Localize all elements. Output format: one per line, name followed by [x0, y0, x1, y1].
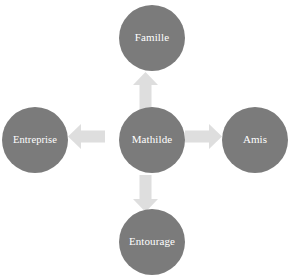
arrow-down-icon — [133, 175, 158, 212]
node-entreprise[interactable]: Entreprise — [2, 107, 68, 173]
node-amis[interactable]: Amis — [222, 107, 288, 173]
node-amis-label: Amis — [243, 134, 267, 146]
node-mathilde-label: Mathilde — [132, 134, 173, 146]
relationship-diagram: Famille Entreprise Mathilde Amis Entoura… — [0, 0, 291, 278]
arrow-left-icon — [68, 124, 105, 149]
arrow-up-icon — [133, 72, 158, 109]
arrow-right-icon — [185, 124, 222, 149]
node-entourage[interactable]: Entourage — [119, 209, 185, 275]
node-famille[interactable]: Famille — [119, 5, 185, 71]
node-famille-label: Famille — [135, 32, 169, 44]
node-entourage-label: Entourage — [129, 236, 175, 248]
node-mathilde-center[interactable]: Mathilde — [119, 107, 185, 173]
node-entreprise-label: Entreprise — [13, 134, 57, 145]
